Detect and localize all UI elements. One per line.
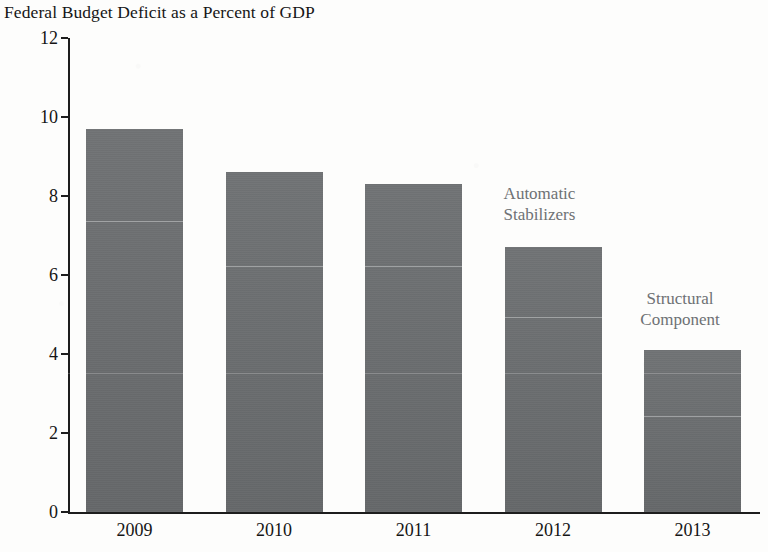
bar-group bbox=[86, 38, 183, 512]
bar-series-group bbox=[70, 38, 760, 512]
x-tick-label-2011: 2011 bbox=[365, 520, 462, 540]
y-tick-mark bbox=[61, 37, 68, 39]
bar-group bbox=[644, 38, 741, 512]
annotation-automatic-stabilizers-line1: Automatic bbox=[452, 183, 627, 204]
bar-2013 bbox=[644, 350, 741, 512]
y-tick-label: 10 bbox=[18, 108, 58, 126]
y-axis-tick-labels: 121086420 bbox=[10, 38, 58, 514]
y-tick-label: 6 bbox=[18, 266, 58, 284]
y-tick-mark bbox=[61, 511, 68, 513]
y-tick-mark bbox=[61, 274, 68, 276]
plot-area: 121086420 20092010201120122013 bbox=[68, 38, 760, 513]
annotation-automatic-stabilizers: Automatic Stabilizers bbox=[452, 183, 627, 225]
annotation-structural-component: Structural Component bbox=[592, 288, 768, 330]
x-axis-line bbox=[68, 512, 760, 514]
x-axis-tick-labels: 20092010201120122013 bbox=[70, 520, 760, 550]
y-tick-mark bbox=[61, 353, 68, 355]
bar-segment-divider bbox=[226, 266, 323, 267]
y-tick-label: 0 bbox=[18, 503, 58, 521]
annotation-structural-component-line2: Component bbox=[592, 309, 768, 330]
annotation-automatic-stabilizers-line2: Stabilizers bbox=[452, 204, 627, 225]
y-tick-mark bbox=[61, 116, 68, 118]
annotation-structural-component-line1: Structural bbox=[592, 288, 768, 309]
bar-2012 bbox=[505, 247, 602, 512]
x-tick-label-2009: 2009 bbox=[86, 520, 183, 540]
bar-2009 bbox=[86, 129, 183, 512]
y-tick-label: 12 bbox=[18, 29, 58, 47]
y-tick-label: 8 bbox=[18, 187, 58, 205]
x-tick-label-2012: 2012 bbox=[505, 520, 602, 540]
bar-2011 bbox=[365, 184, 462, 512]
chart-figure: Federal Budget Deficit as a Percent of G… bbox=[0, 0, 768, 552]
bar-segment-divider bbox=[365, 266, 462, 267]
x-tick-label-2013: 2013 bbox=[644, 520, 741, 540]
bar-segment-divider bbox=[505, 317, 602, 318]
y-tick-mark bbox=[61, 432, 68, 434]
y-tick-mark bbox=[61, 195, 68, 197]
y-tick-label: 4 bbox=[18, 345, 58, 363]
chart-title: Federal Budget Deficit as a Percent of G… bbox=[4, 1, 315, 23]
bar-group bbox=[365, 38, 462, 512]
bar-2010 bbox=[226, 172, 323, 512]
bar-segment-divider bbox=[644, 416, 741, 417]
y-tick-label: 2 bbox=[18, 424, 58, 442]
bar-group bbox=[505, 38, 602, 512]
bar-segment-divider bbox=[86, 221, 183, 222]
bar-group bbox=[226, 38, 323, 512]
x-tick-label-2010: 2010 bbox=[226, 520, 323, 540]
